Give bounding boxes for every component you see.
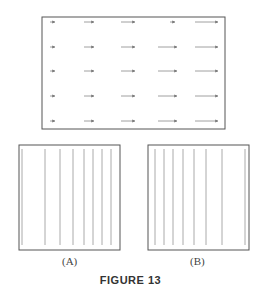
vector-field-arrows	[50, 22, 218, 121]
panel-b	[148, 145, 249, 250]
vector-field-panel	[42, 17, 225, 129]
panel-b-label: (B)	[190, 255, 205, 267]
figure-canvas	[0, 0, 261, 293]
panel-b-lines	[155, 149, 245, 245]
figure-caption: FIGURE 13	[0, 274, 261, 286]
panel-a	[19, 145, 120, 250]
panel-a-lines	[22, 149, 111, 245]
panel-a-label: (A)	[62, 255, 77, 267]
